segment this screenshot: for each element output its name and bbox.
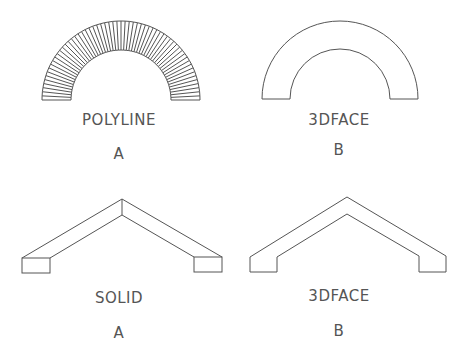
figure-variant-a-top: A [114, 145, 125, 163]
3dface-roof-shape [250, 197, 446, 272]
solid-roof-shape [22, 199, 222, 273]
diagram-canvas [0, 0, 467, 356]
figure-label-3dface-top: 3DFACE [308, 111, 369, 129]
polyline-arch-shape [42, 21, 200, 100]
figure-variant-b-top: B [334, 141, 345, 159]
figure-label-polyline: POLYLINE [82, 111, 156, 129]
figure-label-solid: SOLID [95, 289, 143, 307]
3dface-arch-shape [262, 21, 418, 99]
figure-variant-b-bottom: B [334, 322, 345, 340]
figure-label-3dface-bottom: 3DFACE [308, 287, 369, 305]
figure-variant-a-bottom: A [114, 324, 125, 342]
